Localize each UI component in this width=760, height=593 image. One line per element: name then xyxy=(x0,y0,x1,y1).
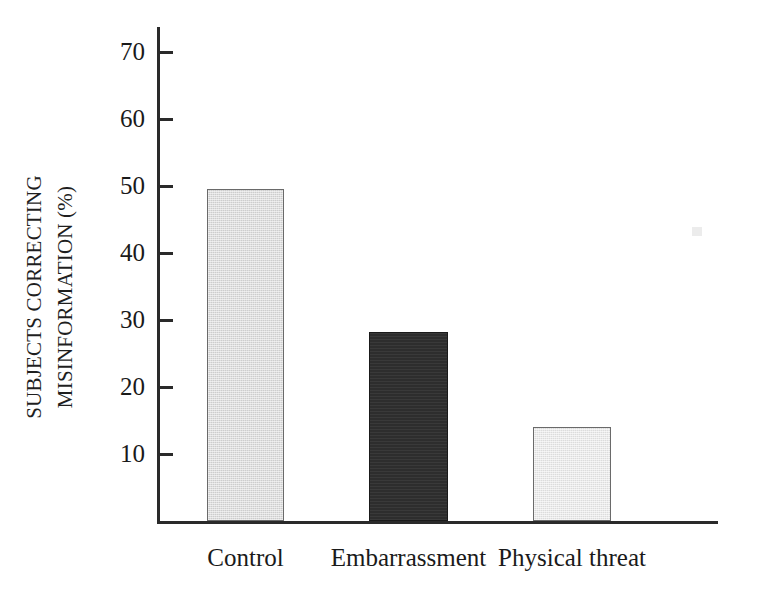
y-tick-label: 10 xyxy=(89,441,145,466)
y-tick-mark xyxy=(160,252,173,255)
y-tick-label: 60 xyxy=(89,106,145,131)
y-axis-line xyxy=(157,27,160,524)
y-tick-label: 50 xyxy=(89,173,145,198)
y-tick-mark xyxy=(160,118,173,121)
bar-physical-threat xyxy=(533,427,611,521)
y-tick-label: 20 xyxy=(89,374,145,399)
y-tick-label: 70 xyxy=(89,39,145,64)
plot-area: 10203040506070 ControlEmbarrassmentPhysi… xyxy=(0,0,760,593)
chart-figure: SUBJECTS CORRECTING MISINFORMATION (%) 1… xyxy=(0,0,760,593)
y-tick-mark xyxy=(160,319,173,322)
x-axis-line xyxy=(157,521,718,524)
x-axis-label-physical-threat: Physical threat xyxy=(452,543,692,572)
y-tick-label: 40 xyxy=(89,240,145,265)
y-tick-mark xyxy=(160,453,173,456)
bar-control xyxy=(207,189,284,521)
y-tick-label: 30 xyxy=(89,307,145,332)
scan-artifact-speck xyxy=(692,227,702,236)
bar-embarrassment xyxy=(369,332,448,521)
y-tick-mark xyxy=(160,386,173,389)
y-tick-mark xyxy=(160,51,173,54)
y-tick-mark xyxy=(160,185,173,188)
